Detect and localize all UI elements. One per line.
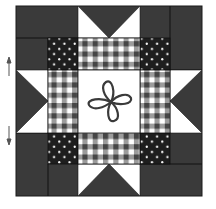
polka-square-bottom-right <box>140 133 170 164</box>
arrow-down-icon <box>7 126 11 145</box>
polka-square-bottom-left <box>48 133 78 164</box>
arrow-up-icon <box>7 57 11 76</box>
gingham-right <box>140 70 170 133</box>
polka-square-top-right <box>140 38 170 70</box>
gingham-left <box>48 70 78 133</box>
polka-square-top-left <box>48 38 78 70</box>
gingham-top <box>78 38 140 70</box>
quilt-block <box>0 0 216 209</box>
gingham-bottom <box>78 133 140 164</box>
